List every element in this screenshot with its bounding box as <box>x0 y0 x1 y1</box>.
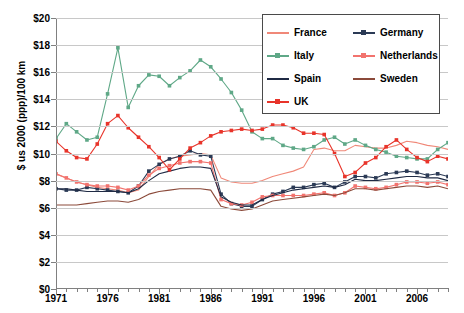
x-tick-minor <box>231 288 232 292</box>
y-tick-label: $2 <box>8 256 50 267</box>
x-tick-minor <box>118 288 119 292</box>
y-tick-label: $16 <box>8 67 50 78</box>
x-tick-minor <box>376 288 377 292</box>
legend-label: Italy <box>294 50 314 61</box>
y-axis-title: $ us 2000 (ppp)/100 km <box>16 41 27 191</box>
x-tick-minor <box>304 288 305 292</box>
x-tick-minor <box>77 288 78 292</box>
x-tick-label: 1986 <box>189 293 233 304</box>
x-tick-minor <box>448 288 449 292</box>
x-tick-minor <box>169 288 170 292</box>
y-tick <box>51 72 56 73</box>
legend-label: Sweden <box>380 73 418 84</box>
legend-swatch-spain <box>267 74 289 84</box>
legend-item-france[interactable]: France <box>267 21 355 44</box>
x-tick-minor <box>407 288 408 292</box>
gridline <box>56 126 448 127</box>
x-tick-label: 2006 <box>395 293 439 304</box>
fuel-price-line-chart: $ us 2000 (ppp)/100 km $0$2$4$6$8$10$12$… <box>0 0 464 313</box>
legend-label: Spain <box>294 73 321 84</box>
y-tick <box>51 262 56 263</box>
x-tick-minor <box>87 288 88 292</box>
x-tick-minor <box>190 288 191 292</box>
legend-line <box>353 78 375 80</box>
x-tick-minor <box>128 288 129 292</box>
chart-legend: FranceItalySpainUK GermanyNetherlandsSwe… <box>262 14 440 114</box>
x-tick-label: 2001 <box>343 293 387 304</box>
legend-line <box>267 78 289 80</box>
legend-column-right: GermanyNetherlandsSweden <box>353 21 441 90</box>
x-tick-label: 1991 <box>240 293 284 304</box>
x-tick-minor <box>242 288 243 292</box>
y-tick-label: $6 <box>8 202 50 213</box>
legend-item-germany[interactable]: Germany <box>353 21 441 44</box>
gridline <box>56 235 448 236</box>
x-tick-minor <box>335 288 336 292</box>
x-tick-minor <box>273 288 274 292</box>
legend-marker <box>275 99 280 104</box>
x-tick-minor <box>396 288 397 292</box>
legend-line <box>267 32 289 34</box>
legend-label: Germany <box>380 27 423 38</box>
legend-item-spain[interactable]: Spain <box>267 67 355 90</box>
x-tick-minor <box>427 288 428 292</box>
legend-swatch-france <box>267 28 289 38</box>
y-tick <box>51 181 56 182</box>
y-tick-label: $10 <box>8 148 50 159</box>
legend-label: UK <box>294 96 308 107</box>
gridline <box>56 262 448 263</box>
x-tick-minor <box>324 288 325 292</box>
y-tick-label: $14 <box>8 94 50 105</box>
x-tick-minor <box>283 288 284 292</box>
x-tick-label: 1971 <box>34 293 78 304</box>
legend-column-left: FranceItalySpainUK <box>267 21 355 113</box>
x-tick-minor <box>221 288 222 292</box>
x-tick-minor <box>438 288 439 292</box>
legend-marker <box>275 53 280 58</box>
series-france <box>56 141 448 193</box>
y-tick <box>51 126 56 127</box>
x-tick-minor <box>97 288 98 292</box>
legend-swatch-netherlands <box>353 51 375 61</box>
y-tick <box>51 208 56 209</box>
x-tick-minor <box>355 288 356 292</box>
y-tick-label: $18 <box>8 40 50 51</box>
gridline <box>56 181 448 182</box>
legend-swatch-germany <box>353 28 375 38</box>
legend-label: France <box>294 27 327 38</box>
x-tick-minor <box>180 288 181 292</box>
legend-swatch-sweden <box>353 74 375 84</box>
x-tick-label: 1976 <box>86 293 130 304</box>
x-tick-minor <box>252 288 253 292</box>
legend-marker <box>361 53 366 58</box>
y-tick-label: $8 <box>8 175 50 186</box>
legend-item-italy[interactable]: Italy <box>267 44 355 67</box>
x-tick-minor <box>345 288 346 292</box>
y-tick <box>51 45 56 46</box>
legend-swatch-uk <box>267 97 289 107</box>
legend-swatch-italy <box>267 51 289 61</box>
legend-item-netherlands[interactable]: Netherlands <box>353 44 441 67</box>
x-tick-minor <box>200 288 201 292</box>
y-tick-label: $4 <box>8 229 50 240</box>
gridline <box>56 208 448 209</box>
x-tick-minor <box>139 288 140 292</box>
y-tick <box>51 235 56 236</box>
series-uk <box>56 114 448 179</box>
x-tick-minor <box>66 288 67 292</box>
x-tick-label: 1996 <box>292 293 336 304</box>
x-tick-label: 1981 <box>137 293 181 304</box>
legend-item-uk[interactable]: UK <box>267 90 355 113</box>
x-tick-minor <box>149 288 150 292</box>
gridline <box>56 154 448 155</box>
legend-item-sweden[interactable]: Sweden <box>353 67 441 90</box>
legend-marker <box>361 30 366 35</box>
y-tick <box>51 18 56 19</box>
y-tick <box>51 154 56 155</box>
x-tick-minor <box>293 288 294 292</box>
legend-label: Netherlands <box>380 50 438 61</box>
x-tick-minor <box>386 288 387 292</box>
y-tick-label: $12 <box>8 121 50 132</box>
y-tick-label: $20 <box>8 13 50 24</box>
y-tick <box>51 99 56 100</box>
